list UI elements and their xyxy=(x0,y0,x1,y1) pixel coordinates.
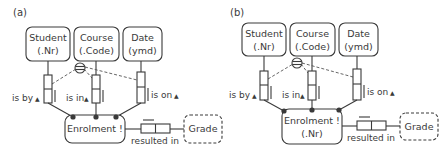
objectified-ref: (.Nr) xyxy=(301,128,322,139)
fact-reading: resulted in xyxy=(131,136,179,146)
external-uniqueness-icon[interactable] xyxy=(75,63,85,73)
join-dot xyxy=(336,107,341,112)
panel-label: (a) xyxy=(13,7,27,18)
entity-name: Student xyxy=(245,28,283,39)
entity-student[interactable]: Student (.Nr) xyxy=(26,27,70,61)
join-dot xyxy=(113,114,118,119)
constraint-link xyxy=(84,69,92,78)
role-reading: is in xyxy=(66,93,84,103)
role-box-course[interactable] xyxy=(308,71,319,100)
direction-arrow-icon: ▲ xyxy=(252,92,257,99)
direction-arrow-icon: ▲ xyxy=(390,89,395,96)
constraint-link xyxy=(52,69,76,84)
role-box-course[interactable] xyxy=(92,75,103,103)
orm-diagram: (a) Student (.Nr) Course (.Code) Date xyxy=(0,0,447,150)
connector xyxy=(48,103,73,117)
value-type-grade[interactable]: Grade xyxy=(400,113,438,140)
objectified-name: Enrolment ! xyxy=(67,123,123,134)
role-reading: is on xyxy=(367,87,388,97)
direction-arrow-icon: ▲ xyxy=(174,92,179,99)
connector xyxy=(339,100,357,110)
entity-ref: (.Nr) xyxy=(253,41,274,52)
constraint-link xyxy=(268,64,293,79)
constraint-link xyxy=(301,64,308,73)
entity-name: Date xyxy=(131,32,154,43)
objectified-name: Enrolment ! xyxy=(284,115,340,126)
role-box-resulted-in[interactable] xyxy=(141,120,170,133)
role-box-date[interactable] xyxy=(353,69,364,100)
external-uniqueness-icon[interactable] xyxy=(292,58,302,68)
entity-ref: (.Nr) xyxy=(37,45,58,56)
value-type-name: Grade xyxy=(405,121,434,132)
entity-name: Date xyxy=(347,28,370,39)
entity-date[interactable]: Date (ymd) xyxy=(123,27,162,61)
join-dot xyxy=(70,114,75,119)
entity-name: Course xyxy=(296,28,329,39)
entity-name: Course xyxy=(80,32,113,43)
role-reading: is by xyxy=(229,90,251,100)
panel-b: (b) Student (.Nr) Course (.Code) Date (y… xyxy=(229,7,438,144)
value-type-name: Grade xyxy=(189,123,218,134)
panel-label: (b) xyxy=(230,7,244,18)
role-reading: is by xyxy=(12,93,34,103)
join-dot xyxy=(93,114,98,119)
join-dot xyxy=(309,107,314,112)
entity-course[interactable]: Course (.Code) xyxy=(290,23,335,56)
direction-arrow-icon: ▲ xyxy=(35,95,40,102)
direction-arrow-icon: ▲ xyxy=(84,95,89,102)
entity-student[interactable]: Student (.Nr) xyxy=(242,23,286,56)
entity-ref: (.Code) xyxy=(79,45,114,56)
connector xyxy=(264,100,284,111)
entity-course[interactable]: Course (.Code) xyxy=(74,27,119,61)
entity-ref: (ymd) xyxy=(128,45,156,56)
role-box-resulted-in[interactable] xyxy=(357,117,386,130)
role-box-date[interactable] xyxy=(137,72,148,103)
join-dot xyxy=(281,108,286,113)
entity-ref: (.Code) xyxy=(295,41,330,52)
direction-arrow-icon: ▲ xyxy=(300,92,305,99)
panel-a: (a) Student (.Nr) Course (.Code) Date xyxy=(12,7,222,146)
role-box-student[interactable] xyxy=(260,71,271,100)
fact-reading: resulted in xyxy=(347,133,395,143)
entity-name: Student xyxy=(29,32,67,43)
entity-ref: (ymd) xyxy=(344,41,372,52)
role-reading: is in xyxy=(282,90,300,100)
entity-date[interactable]: Date (ymd) xyxy=(339,23,378,56)
role-reading: is on xyxy=(151,90,172,100)
objectified-enrolment[interactable]: Enrolment ! (.Nr) xyxy=(282,109,342,144)
value-type-grade[interactable]: Grade xyxy=(184,115,222,143)
role-box-student[interactable] xyxy=(44,75,55,103)
